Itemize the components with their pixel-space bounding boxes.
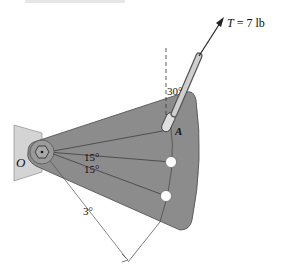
point-A-label: A bbox=[174, 125, 182, 137]
hole-lower bbox=[161, 191, 172, 202]
point-O-label: O bbox=[16, 155, 26, 170]
angle-label-15-upper: 15° bbox=[84, 151, 99, 163]
force-label: T = 7 lb bbox=[227, 16, 265, 30]
angle-label-3: 3° bbox=[83, 205, 93, 217]
clipped-caption-text bbox=[25, 0, 125, 3]
diagram-svg: T = 7 lb 30° A O 15° 15° 3° bbox=[0, 0, 282, 278]
pivot-point bbox=[41, 151, 44, 154]
angle-label-30: 30° bbox=[167, 85, 182, 97]
arc-tick-icon bbox=[122, 254, 128, 262]
force-line bbox=[199, 20, 222, 56]
angle-label-15-lower: 15° bbox=[84, 163, 99, 175]
arrow-head-icon bbox=[216, 17, 224, 27]
hole-upper bbox=[166, 157, 177, 168]
figure-canvas: T = 7 lb 30° A O 15° 15° 3° bbox=[0, 0, 282, 278]
